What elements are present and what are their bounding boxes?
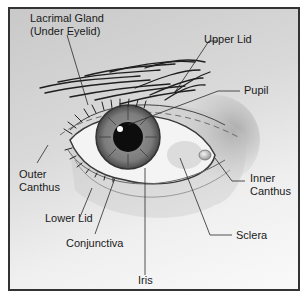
label-conjunctiva: Conjunctiva <box>66 237 123 250</box>
eyebrow <box>40 60 210 104</box>
label-inner-canthus-line1: Inner <box>250 172 291 185</box>
leader-lacrimal-gland <box>67 35 88 105</box>
label-inner-canthus: Inner Canthus <box>250 172 291 198</box>
label-lacrimal-gland: Lacrimal Gland (Under Eyelid) <box>30 12 104 38</box>
label-outer-canthus-line1: Outer <box>19 168 60 181</box>
label-pupil: Pupil <box>244 84 268 97</box>
label-sclera: Sclera <box>236 229 267 242</box>
caruncle <box>199 150 211 160</box>
label-iris: Iris <box>138 274 153 287</box>
label-upper-lid: Upper Lid <box>204 33 252 46</box>
pupil-highlight <box>117 126 123 132</box>
eye-illustration <box>0 0 305 298</box>
label-inner-canthus-line2: Canthus <box>250 185 291 198</box>
label-lower-lid: Lower Lid <box>45 212 93 225</box>
label-lacrimal-gland-line2: (Under Eyelid) <box>30 25 104 38</box>
label-outer-canthus-line2: Canthus <box>19 181 60 194</box>
leader-upper-lid <box>175 41 218 92</box>
label-outer-canthus: Outer Canthus <box>19 168 60 194</box>
pupil <box>113 122 143 152</box>
leader-outer-canthus <box>37 145 48 163</box>
label-lacrimal-gland-line1: Lacrimal Gland <box>30 12 104 25</box>
